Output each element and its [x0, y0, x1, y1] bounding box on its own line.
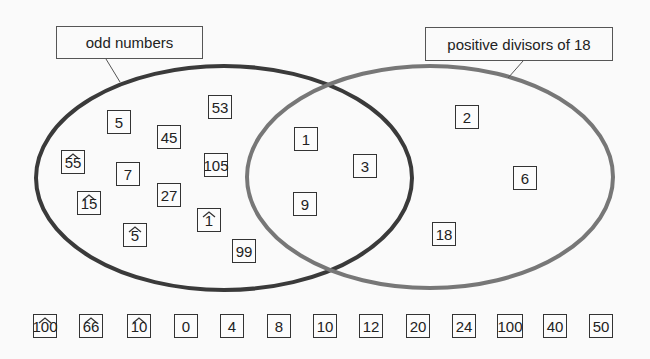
number-value: 53 [212, 100, 229, 115]
number-card-only-left[interactable]: 53 [208, 95, 232, 119]
number-card-only-right[interactable]: 18 [432, 222, 456, 246]
number-card-outside[interactable]: 10 [127, 314, 151, 338]
number-value: 27 [161, 188, 178, 203]
number-card-only-left[interactable]: 55 [61, 150, 85, 174]
number-card-only-left[interactable]: 7 [116, 162, 140, 186]
number-card-only-left[interactable]: 45 [157, 125, 181, 149]
number-card-only-left[interactable]: 105 [204, 153, 228, 177]
number-value: 4 [228, 319, 236, 334]
number-value: 5 [115, 115, 123, 130]
divisors-of-18-set-ellipse [247, 66, 613, 288]
number-value: 45 [161, 130, 178, 145]
number-card-only-right[interactable]: 6 [513, 166, 537, 190]
number-card-outside[interactable]: 24 [452, 314, 476, 338]
number-card-outside[interactable]: 4 [220, 314, 244, 338]
number-card-outside[interactable]: 20 [406, 314, 430, 338]
divisors-of-18-label: positive divisors of 18 [425, 27, 613, 61]
number-value: 8 [275, 319, 283, 334]
number-value: 10 [131, 319, 148, 334]
number-value: 3 [361, 159, 369, 174]
number-value: 1 [205, 213, 213, 228]
number-card-outside[interactable]: 40 [543, 314, 567, 338]
number-value: 99 [236, 244, 253, 259]
number-value: 0 [182, 319, 190, 334]
odd-numbers-label: odd numbers [56, 26, 203, 59]
number-value: 55 [65, 155, 82, 170]
number-card-outside[interactable]: 66 [79, 314, 103, 338]
number-card-intersection[interactable]: 1 [294, 127, 318, 151]
number-value: 24 [456, 319, 473, 334]
number-card-outside[interactable]: 10 [313, 314, 337, 338]
number-card-outside[interactable]: 8 [267, 314, 291, 338]
number-value: 9 [301, 197, 309, 212]
number-value: 50 [593, 319, 610, 334]
number-value: 5 [131, 228, 139, 243]
number-value: 105 [203, 158, 228, 173]
number-card-only-right[interactable]: 2 [455, 105, 479, 129]
number-card-intersection[interactable]: 9 [293, 192, 317, 216]
number-card-outside[interactable]: 12 [359, 314, 383, 338]
number-card-only-left[interactable]: 5 [107, 110, 131, 134]
number-value: 100 [497, 319, 522, 334]
number-value: 66 [83, 319, 100, 334]
odd-numbers-label-pointer [106, 59, 120, 82]
number-card-only-left[interactable]: 15 [77, 191, 101, 215]
number-card-only-left[interactable]: 27 [157, 183, 181, 207]
number-value: 100 [32, 319, 57, 334]
number-card-only-left[interactable]: 1 [197, 208, 221, 232]
number-card-outside[interactable]: 100 [497, 314, 523, 338]
number-value: 40 [547, 319, 564, 334]
number-value: 12 [363, 319, 380, 334]
number-card-outside[interactable]: 50 [589, 314, 613, 338]
number-card-outside[interactable]: 100 [33, 314, 57, 338]
number-value: 15 [81, 196, 98, 211]
number-value: 1 [302, 132, 310, 147]
number-value: 7 [124, 167, 132, 182]
number-value: 10 [317, 319, 334, 334]
number-value: 18 [436, 227, 453, 242]
number-card-only-left[interactable]: 99 [232, 239, 256, 263]
number-value: 2 [463, 110, 471, 125]
number-value: 20 [410, 319, 427, 334]
number-card-outside[interactable]: 0 [174, 314, 198, 338]
number-card-only-left[interactable]: 5 [123, 223, 147, 247]
number-card-intersection[interactable]: 3 [353, 154, 377, 178]
divisors-label-pointer [508, 61, 523, 78]
number-value: 6 [521, 171, 529, 186]
